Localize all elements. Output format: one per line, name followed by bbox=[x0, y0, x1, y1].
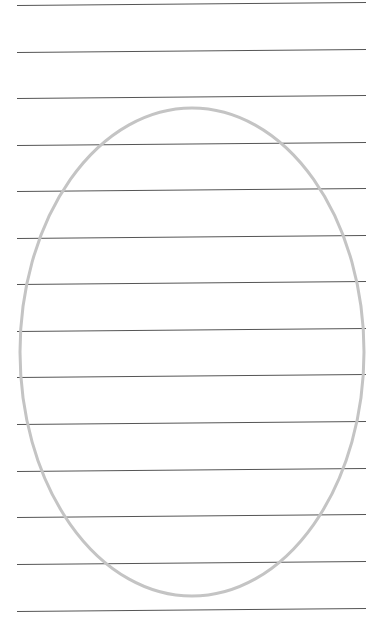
ruled-line bbox=[17, 189, 366, 192]
ruled-line bbox=[17, 3, 366, 6]
ruled-line bbox=[17, 562, 366, 565]
ruled-lines bbox=[17, 3, 366, 612]
oval-outline bbox=[20, 108, 364, 596]
ruled-line bbox=[17, 609, 366, 612]
ruled-line bbox=[17, 515, 366, 518]
ruled-line bbox=[17, 96, 366, 99]
ruled-line bbox=[17, 50, 366, 53]
ruled-line bbox=[17, 469, 366, 472]
lined-paper-with-oval bbox=[0, 0, 388, 638]
ruled-line bbox=[17, 422, 366, 425]
ruled-line bbox=[17, 329, 366, 332]
ruled-line bbox=[17, 282, 366, 285]
ruled-line bbox=[17, 375, 366, 378]
ruled-line bbox=[17, 143, 366, 146]
ruled-line bbox=[17, 236, 366, 239]
